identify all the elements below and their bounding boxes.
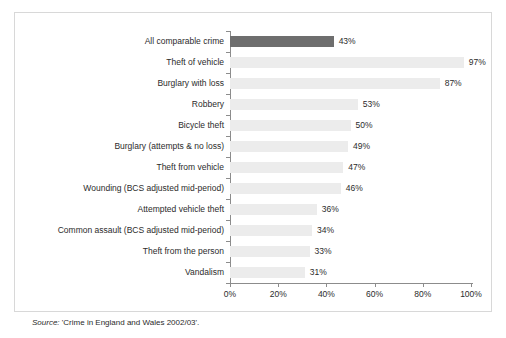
x-axis-tick-label: 20% bbox=[270, 289, 287, 299]
chart-figure: 0%20%40%60%80%100% All comparable crime4… bbox=[14, 12, 492, 312]
bar bbox=[230, 78, 440, 89]
category-label: Bicycle theft bbox=[30, 115, 230, 136]
bar-row: Common assault (BCS adjusted mid-period)… bbox=[15, 220, 491, 241]
x-axis-tick bbox=[230, 283, 231, 287]
x-axis-tick-label: 0% bbox=[224, 289, 236, 299]
x-axis-line: 0%20%40%60%80%100% bbox=[230, 283, 473, 284]
bar bbox=[230, 204, 317, 215]
bar-row: Burglary (attempts & no loss)49% bbox=[15, 136, 491, 157]
source-text: 'Crime in England and Wales 2002/03'. bbox=[60, 318, 200, 327]
category-label: Vandalism bbox=[30, 262, 230, 283]
bar-value-label: 47% bbox=[348, 157, 365, 178]
bar-row: Theft from the person33% bbox=[15, 241, 491, 262]
bar-row: Wounding (BCS adjusted mid-period)46% bbox=[15, 178, 491, 199]
x-axis-tick bbox=[471, 283, 472, 287]
bar-value-label: 43% bbox=[339, 31, 356, 52]
bar-row: Bicycle theft50% bbox=[15, 115, 491, 136]
x-axis-tick-label: 60% bbox=[366, 289, 383, 299]
bar-row: All comparable crime43% bbox=[15, 31, 491, 52]
category-label: Theft of vehicle bbox=[30, 52, 230, 73]
category-label: Theft from the person bbox=[30, 241, 230, 262]
x-axis-tick bbox=[278, 283, 279, 287]
bar-row: Robbery53% bbox=[15, 94, 491, 115]
x-axis-tick bbox=[423, 283, 424, 287]
bar-value-label: 46% bbox=[346, 178, 363, 199]
bar bbox=[230, 225, 312, 236]
bar-row: Burglary with loss87% bbox=[15, 73, 491, 94]
category-label: All comparable crime bbox=[30, 31, 230, 52]
bar-row: Theft from vehicle47% bbox=[15, 157, 491, 178]
bar-row: Attempted vehicle theft36% bbox=[15, 199, 491, 220]
bar bbox=[230, 162, 343, 173]
category-label: Theft from vehicle bbox=[30, 157, 230, 178]
x-axis-tick bbox=[375, 283, 376, 287]
bar-row: Theft of vehicle97% bbox=[15, 52, 491, 73]
x-axis-tick-label: 80% bbox=[414, 289, 431, 299]
bar bbox=[230, 246, 310, 257]
source-label: Source: bbox=[32, 318, 60, 327]
x-axis-tick-label: 40% bbox=[318, 289, 335, 299]
bar-value-label: 49% bbox=[353, 136, 370, 157]
bar bbox=[230, 141, 348, 152]
bar bbox=[230, 120, 351, 131]
bar-value-label: 87% bbox=[445, 73, 462, 94]
bar-highlighted bbox=[230, 36, 334, 47]
category-label: Attempted vehicle theft bbox=[30, 199, 230, 220]
bar-value-label: 50% bbox=[356, 115, 373, 136]
bar-chart-plot: 0%20%40%60%80%100% All comparable crime4… bbox=[15, 13, 491, 311]
category-label: Robbery bbox=[30, 94, 230, 115]
category-label: Wounding (BCS adjusted mid-period) bbox=[30, 178, 230, 199]
bar-row: Vandalism31% bbox=[15, 262, 491, 283]
bar bbox=[230, 99, 358, 110]
category-label: Burglary with loss bbox=[30, 73, 230, 94]
x-axis-tick-label: 100% bbox=[460, 289, 482, 299]
bar-value-label: 34% bbox=[317, 220, 334, 241]
x-axis-tick bbox=[326, 283, 327, 287]
bar-value-label: 97% bbox=[469, 52, 486, 73]
bar bbox=[230, 183, 341, 194]
bar-value-label: 33% bbox=[315, 241, 332, 262]
source-caption: Source: 'Crime in England and Wales 2002… bbox=[32, 318, 199, 327]
bar bbox=[230, 267, 305, 278]
category-label: Burglary (attempts & no loss) bbox=[30, 136, 230, 157]
category-label: Common assault (BCS adjusted mid-period) bbox=[30, 220, 230, 241]
bar-value-label: 53% bbox=[363, 94, 380, 115]
bar bbox=[230, 57, 464, 68]
bar-value-label: 31% bbox=[310, 262, 327, 283]
bar-value-label: 36% bbox=[322, 199, 339, 220]
